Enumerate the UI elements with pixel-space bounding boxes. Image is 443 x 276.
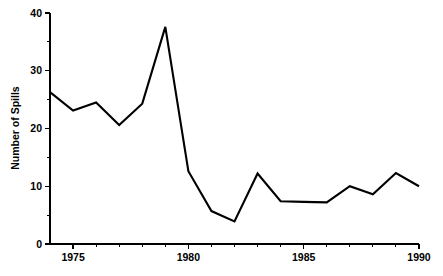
- chart-page: 010203040 1975198019851990 Number of Spi…: [0, 0, 443, 276]
- x-tick-label: 1980: [177, 251, 201, 263]
- y-tick-label: 10: [30, 180, 42, 192]
- y-axis-title: Number of Spills: [9, 86, 21, 170]
- x-tick-label: 1975: [61, 251, 85, 263]
- x-tick-label: 1990: [407, 251, 431, 263]
- chart-background: [0, 0, 443, 276]
- line-chart: 010203040 1975198019851990 Number of Spi…: [0, 0, 443, 276]
- x-tick-label: 1985: [292, 251, 316, 263]
- y-tick-label: 0: [36, 238, 42, 250]
- y-tick-label: 40: [30, 7, 42, 19]
- y-tick-label: 30: [30, 64, 42, 76]
- y-tick-label: 20: [30, 122, 42, 134]
